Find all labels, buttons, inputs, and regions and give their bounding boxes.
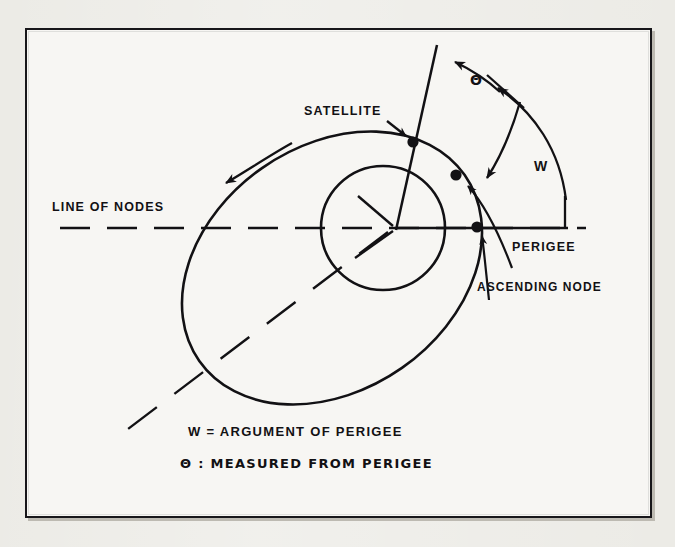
- focus-tick-upper-left: [358, 196, 393, 226]
- angle-w-arc-inner: [487, 102, 520, 178]
- label-line-of-nodes: LINE OF NODES: [52, 200, 164, 214]
- ascending-node-dot: [471, 221, 482, 232]
- perigee-dot: [450, 169, 461, 180]
- motion-direction-arrow: [226, 143, 292, 183]
- radius-vector-line: [396, 45, 437, 230]
- theta-arc-cross-tick: [487, 75, 524, 108]
- legend-line-true-anomaly: Θ : MEASURED FROM PERIGEE: [180, 456, 433, 471]
- label-perigee: PERIGEE: [512, 240, 576, 254]
- legend-line-argument-of-perigee: W = ARGUMENT OF PERIGEE: [188, 424, 403, 439]
- satellite-dot: [407, 136, 418, 147]
- orbit-ellipse: [129, 75, 534, 461]
- label-ascending-node: ASCENDING NODE: [477, 280, 602, 294]
- label-satellite: SATELLITE: [304, 104, 381, 118]
- label-angle-w: W: [534, 158, 548, 174]
- focus-tick-lower-left: [355, 231, 393, 258]
- label-angle-theta: Θ: [470, 72, 483, 88]
- line-of-apsides: [124, 232, 388, 432]
- angle-w-arc: [498, 88, 566, 200]
